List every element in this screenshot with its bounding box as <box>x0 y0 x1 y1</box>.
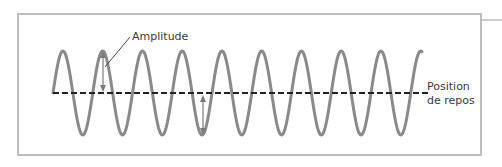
amplitude-label: Amplitude <box>132 30 189 43</box>
rest-position-label-line1: Position <box>427 80 470 93</box>
wave-diagram: Amplitude Position de repos <box>0 0 502 167</box>
rest-position-label-line2: de repos <box>427 94 475 107</box>
